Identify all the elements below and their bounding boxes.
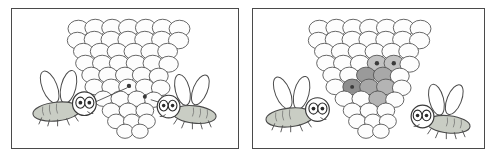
- fly-wing-icon: [36, 69, 62, 106]
- right-panel-canvas: [253, 9, 484, 148]
- fly-left: [265, 74, 329, 132]
- fly-pupil-icon: [87, 101, 91, 105]
- fly-wing-icon: [270, 74, 296, 111]
- fly-pupil-icon: [416, 114, 420, 118]
- nest-cell: [117, 124, 134, 138]
- wasp-nest-comb: [67, 19, 190, 138]
- egg-dot-icon: [392, 61, 396, 65]
- fly-pupil-icon: [425, 114, 429, 118]
- fly-pupil-icon: [171, 104, 175, 108]
- right-panel: [252, 8, 485, 149]
- figure-root: [0, 0, 498, 158]
- left-panel-canvas: [12, 9, 238, 148]
- egg-dot-icon: [375, 61, 379, 65]
- fly-wing-icon: [442, 82, 467, 117]
- egg-dot-icon: [143, 95, 147, 99]
- left-panel: [11, 8, 239, 149]
- fly-pupil-icon: [321, 107, 325, 111]
- fly-pupil-icon: [312, 107, 316, 111]
- fly-pupil-icon: [162, 104, 166, 108]
- fly-wing-icon: [188, 73, 213, 108]
- nest-cell: [358, 124, 375, 138]
- nest-cell: [132, 124, 149, 138]
- fly-right: [411, 82, 471, 139]
- nest-cell: [373, 124, 390, 138]
- egg-dot-icon: [350, 85, 354, 89]
- egg-dot-icon: [127, 84, 131, 88]
- fly-pupil-icon: [79, 101, 83, 105]
